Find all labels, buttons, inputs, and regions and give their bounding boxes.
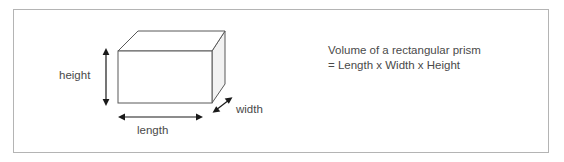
width-label: width xyxy=(236,103,263,116)
height-label: height xyxy=(59,69,90,82)
width-dimension-arrow xyxy=(213,97,233,112)
volume-formula-block: Volume of a rectangular prism = Length x… xyxy=(328,43,481,73)
length-label: length xyxy=(137,124,168,137)
formula-line-2: = Length x Width x Height xyxy=(328,58,481,73)
prism-front-face xyxy=(118,51,212,103)
height-dimension-arrow xyxy=(103,48,110,106)
prism-top-face xyxy=(118,31,225,51)
length-dimension-arrow xyxy=(118,114,203,121)
figure-root: height length width Volume of a rectangu… xyxy=(0,0,564,162)
formula-line-1: Volume of a rectangular prism xyxy=(328,43,481,58)
